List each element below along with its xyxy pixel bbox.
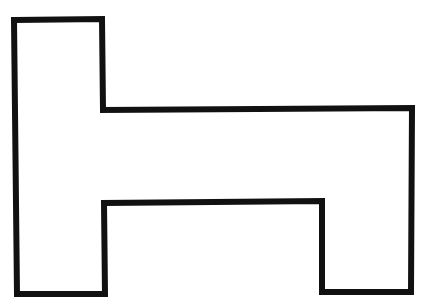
polygon-drawing [0,0,439,307]
rectilinear-polygon-outline [14,19,412,294]
diagram-canvas [0,0,439,307]
